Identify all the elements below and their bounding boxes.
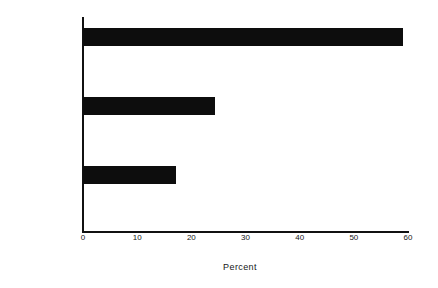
- chart-container: Alone With Relatives With Friends 0 10 2…: [0, 0, 438, 288]
- x-axis-title: Percent: [223, 262, 257, 272]
- x-tick-30: 30: [231, 233, 261, 242]
- bar-alone: [83, 28, 403, 46]
- bar-with-friends: [83, 166, 176, 184]
- x-axis-title-wrap: Percent: [0, 262, 438, 272]
- x-tick-60: 60: [393, 233, 423, 242]
- x-tick-50: 50: [339, 233, 369, 242]
- x-tick-0: 0: [68, 233, 98, 242]
- x-tick-40: 40: [285, 233, 315, 242]
- bar-with-relatives: [83, 97, 215, 115]
- x-tick-20: 20: [176, 233, 206, 242]
- x-tick-10: 10: [122, 233, 152, 242]
- plot-area: [83, 17, 408, 232]
